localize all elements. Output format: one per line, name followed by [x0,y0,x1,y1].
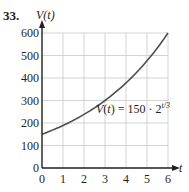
x-tick-label: 4 [123,172,129,186]
x-tick-labels: 0123456 [39,172,171,186]
y-tick-label: 200 [21,116,39,130]
y-tick-label: 400 [21,71,39,85]
y-tick-label: 300 [21,94,39,108]
x-tick-label: 6 [165,172,171,186]
x-axis-label: t [179,161,183,175]
x-tick-label: 0 [39,172,45,186]
x-tick-label: 3 [102,172,108,186]
y-tick-label: 600 [21,26,39,40]
x-tick-label: 1 [60,172,66,186]
y-tick-labels: 0100200300400500600 [21,26,39,175]
y-axis-label: V(t) [36,8,55,22]
y-tick-label: 500 [21,49,39,63]
y-tick-label: 100 [21,139,39,153]
exponential-chart: 0100200300400500600 0123456 V(t) t V(t) … [0,0,189,192]
formula-label: V(t) = 150 · 2t/3 [96,101,170,116]
axes [39,20,180,171]
x-tick-label: 2 [81,172,87,186]
formula-exponent: t/3 [161,101,169,110]
x-tick-label: 5 [144,172,150,186]
